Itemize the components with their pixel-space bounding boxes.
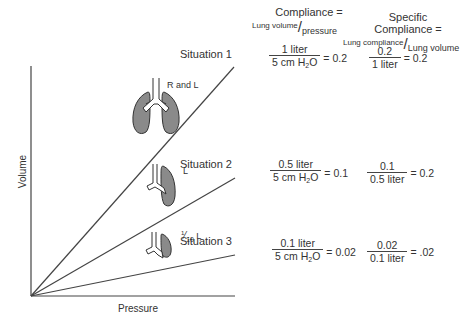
specific-denominator: 0.1 liter (367, 251, 407, 264)
compliance-denominator: 5 cm H2O (269, 55, 320, 72)
compliance-denominator: 5 cm H2O (270, 170, 321, 187)
situation-1-label: Situation 1 (180, 48, 232, 60)
specific-compliance-header-line1: Specific (368, 11, 448, 23)
specific-numerator: 0.02 (374, 239, 400, 251)
lung-left-icon (147, 164, 175, 206)
compliance-numerator: 0.5 liter (275, 158, 315, 170)
specific-result: = 0.2 (410, 167, 434, 179)
compliance-numerator: 0.1 liter (277, 237, 317, 249)
situation-3-compliance: 0.1 liter 5 cm H2O = 0.02 (272, 237, 356, 266)
compliance-result: = 0.1 (324, 167, 348, 179)
situation-3-specific-compliance: 0.02 0.1 liter = .02 (367, 239, 434, 264)
situation-2-label: Situation 2 (180, 158, 232, 170)
specific-result: = 0.2 (404, 52, 428, 64)
situation-2-compliance: 0.5 liter 5 cm H2O = 0.1 (270, 158, 348, 187)
y-axis-label: Volume (17, 152, 28, 192)
situation-1-specific-compliance: 0.2 1 liter = 0.2 (369, 45, 427, 70)
specific-numerator: 0.2 (375, 45, 396, 57)
specific-denominator: 0.5 liter (367, 172, 407, 185)
situation-1-compliance: 1 liter 5 cm H2O = 0.2 (269, 43, 347, 72)
situation-2-specific-compliance: 0.1 0.5 liter = 0.2 (367, 160, 434, 185)
compliance-header-title: Compliance = (262, 6, 356, 18)
specific-result: = .02 (410, 246, 434, 258)
compliance-result: = 0.02 (326, 246, 356, 258)
situation-3-label: Situation 3 (180, 235, 232, 247)
compliance-formula-numerator: Lung volume (252, 21, 298, 30)
lung-label-situation-1: R and L (167, 80, 199, 90)
lung-small-icon (146, 232, 171, 258)
compliance-denominator: 5 cm H2O (272, 249, 323, 266)
specific-numerator: 0.1 (377, 160, 398, 172)
compliance-numerator: 1 liter (279, 43, 311, 55)
specific-compliance-header-line2: Compliance = (362, 23, 454, 35)
compliance-result: = 0.2 (323, 52, 347, 64)
specific-denominator: 1 liter (369, 57, 401, 70)
compliance-formula-denominator: pressure (302, 26, 337, 36)
compliance-formula: Lung volume/pressure (252, 18, 337, 36)
x-axis-label: Pressure (118, 303, 158, 314)
